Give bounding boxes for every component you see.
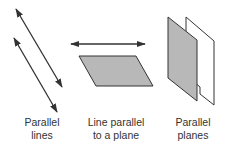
label-parallel-planes-line2: planes [166,129,220,142]
label-parallel-planes: Parallel planes [166,116,220,142]
line-parallel-plane-figure [71,44,153,86]
label-parallel-lines: Parallel lines [16,116,68,142]
label-line-parallel-plane-line1: Line parallel [80,116,152,129]
plane-parallelogram [79,56,153,86]
label-line-parallel-plane: Line parallel to a plane [80,116,152,142]
parallel-lines-figure [14,9,62,112]
label-parallel-planes-line1: Parallel [166,116,220,129]
label-line-parallel-plane-line2: to a plane [80,129,152,142]
label-parallel-lines-line1: Parallel [16,116,68,129]
double-arrow-line-2 [14,38,57,112]
double-arrow-line-1 [16,9,62,87]
label-parallel-lines-line2: lines [16,129,68,142]
parallel-planes-figure [168,17,214,105]
